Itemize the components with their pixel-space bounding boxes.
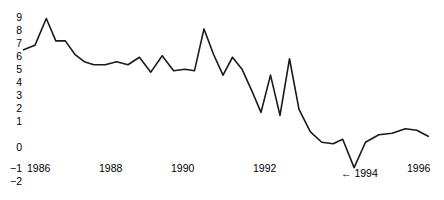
- y-axis-tick-2: 2: [4, 103, 22, 114]
- line-chart: 9 8 7 6 5 4 3 2 1 0 −1 −2 1986 1988 1990…: [0, 0, 444, 200]
- y-axis-tick-neg1: −1: [2, 163, 22, 174]
- y-axis-tick-8: 8: [4, 25, 22, 36]
- x-axis-tick-1992: 1992: [253, 163, 276, 174]
- x-axis-tick-1986: 1986: [27, 163, 50, 174]
- y-axis-tick-neg2: −2: [2, 176, 22, 187]
- y-axis-tick-5: 5: [4, 64, 22, 75]
- y-axis-tick-6: 6: [4, 51, 22, 62]
- x-axis-tick-1990: 1990: [171, 163, 194, 174]
- y-axis-tick-0: 0: [4, 142, 22, 153]
- data-series-line: [24, 18, 429, 167]
- y-axis-tick-1: 1: [4, 116, 22, 127]
- x-axis-tick-1988: 1988: [99, 163, 122, 174]
- y-axis-tick-7: 7: [4, 38, 22, 49]
- x-axis-tick-1996: 1996: [407, 163, 430, 174]
- y-axis-tick-3: 3: [4, 90, 22, 101]
- x-axis-annotation-1994: ← 1994: [341, 168, 378, 179]
- y-axis-tick-4: 4: [4, 77, 22, 88]
- y-axis-tick-9: 9: [4, 12, 22, 23]
